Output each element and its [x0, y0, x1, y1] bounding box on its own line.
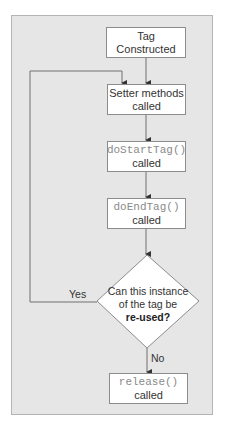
node-do-end-tag: doEndTag() called [107, 198, 186, 229]
node-sublabel: called [134, 389, 163, 402]
node-sublabel: called [132, 157, 161, 170]
edge-label-yes: Yes [69, 288, 86, 300]
decision-label: Can this instance of the tag be re-used? [100, 285, 196, 324]
node-sublabel: called [132, 214, 161, 227]
node-setter-methods: Setter methods called [107, 84, 186, 115]
decision-line-3: re-used? [126, 311, 170, 323]
edge-label-no: No [151, 352, 164, 364]
node-sublabel: called [132, 100, 161, 113]
node-label: Tag Constructed [107, 30, 185, 56]
decision-line-2: of the tag be [100, 298, 196, 311]
node-label: Setter methods [109, 87, 184, 100]
node-release: release() called [109, 373, 188, 404]
node-code-label: doStartTag() [107, 144, 186, 157]
node-code-label: release() [119, 376, 178, 389]
node-code-label: doEndTag() [113, 201, 179, 214]
decision-line-1: Can this instance [100, 285, 196, 298]
node-do-start-tag: doStartTag() called [107, 141, 186, 172]
node-tag-constructed: Tag Constructed [106, 27, 186, 58]
